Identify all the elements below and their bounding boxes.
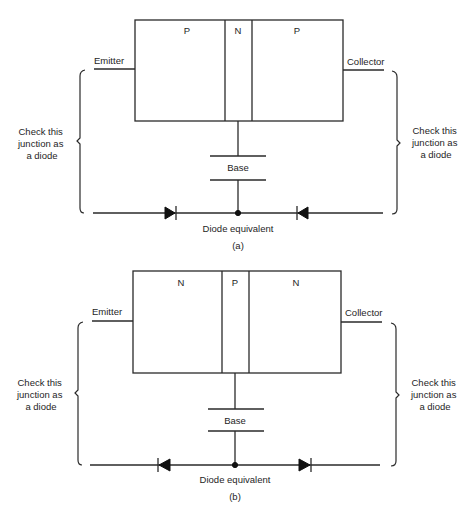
diode-icon-right <box>299 458 311 472</box>
region-label-left: P <box>184 25 190 36</box>
caption-a: (a) <box>232 240 244 251</box>
diode-icon-left <box>165 206 176 220</box>
region-label-right: P <box>294 25 300 36</box>
diagram-b: N P N Emitter Collector Check this junct… <box>16 271 459 502</box>
diagram-a: P N P Emitter Collector Check this junct… <box>17 20 460 251</box>
emitter-label: Emitter <box>94 55 124 66</box>
region-label-left: N <box>178 277 185 288</box>
collector-label: Collector <box>345 307 383 318</box>
region-label-right: N <box>293 277 300 288</box>
right-brace <box>392 71 400 214</box>
junction-dot <box>235 210 240 215</box>
emitter-label: Emitter <box>92 306 122 317</box>
base-label: Base <box>227 162 249 173</box>
right-annotation: Check this junction as a diode <box>411 125 460 160</box>
region-label-middle: N <box>235 25 242 36</box>
equivalent-label: Diode equivalent <box>203 223 274 234</box>
region-label-middle: P <box>232 277 238 288</box>
caption-b: (b) <box>229 491 241 502</box>
left-annotation: Check this junction as a diode <box>16 377 65 412</box>
transistor-diode-equivalent-figure: P N P Emitter Collector Check this junct… <box>0 0 476 516</box>
left-brace <box>75 322 83 465</box>
equivalent-label: Diode equivalent <box>200 474 271 485</box>
right-brace <box>391 323 399 466</box>
base-label: Base <box>224 415 246 426</box>
collector-label: Collector <box>347 56 385 67</box>
diode-icon-left <box>158 458 170 472</box>
junction-dot <box>232 462 237 467</box>
left-brace <box>77 70 85 213</box>
left-annotation: Check this junction as a diode <box>17 126 66 161</box>
diode-icon-right <box>297 206 308 220</box>
right-annotation: Check this junction as a diode <box>410 377 459 412</box>
